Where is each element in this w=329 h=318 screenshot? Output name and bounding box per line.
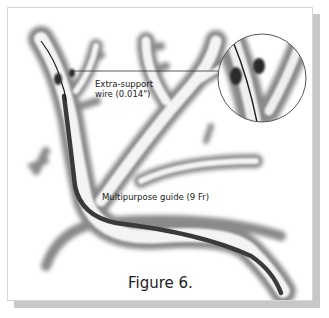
wire-label-line1: Extra-support xyxy=(95,79,153,89)
figure-frame: Extra-support wire (0.014") Multipurpose… xyxy=(7,7,313,301)
vessel-tree-illustration xyxy=(8,8,313,301)
figure-caption: Figure 6. xyxy=(128,274,193,292)
guide-label: Multipurpose guide (9 Fr) xyxy=(102,192,209,202)
magnified-inset-circle xyxy=(218,34,306,131)
wire-label-line2: wire (0.014") xyxy=(95,89,150,99)
